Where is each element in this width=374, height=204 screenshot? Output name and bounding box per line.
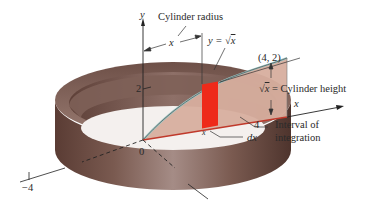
radius-var-label: x	[169, 38, 174, 49]
point-label: (4, 2)	[258, 53, 281, 64]
tick-2-label: 2	[136, 84, 141, 95]
tick-neg4-label: −4	[22, 183, 33, 194]
origin-label: 0	[139, 147, 144, 158]
height-text: = Cylinder height	[269, 83, 346, 94]
curve-label: y = √x	[208, 36, 235, 47]
x-axis-label: x	[294, 99, 299, 110]
x-position-label: x	[202, 129, 206, 137]
shell-strip	[202, 82, 218, 129]
cylinder-radius-label: Cylinder radius	[158, 12, 223, 23]
tick-4-label: 4	[254, 120, 259, 131]
shell-method-diagram	[0, 0, 374, 204]
cylinder-height-label: √x = Cylinder height	[259, 84, 346, 95]
curve-lhs: y =	[208, 35, 225, 46]
curve-rad: x	[231, 35, 236, 46]
interval-label-line1: Interval of	[275, 120, 319, 131]
interval-label-line2: integration	[275, 133, 321, 144]
dx-label: dx	[247, 133, 257, 144]
y-axis-label: y	[140, 10, 145, 21]
